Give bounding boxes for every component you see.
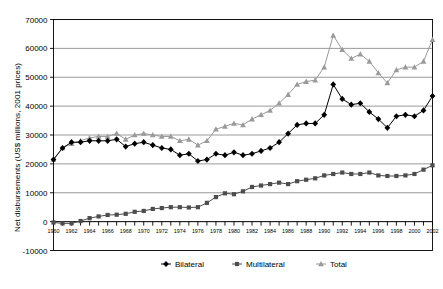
x-tick-label: 1994	[354, 228, 366, 234]
data-point-bilateral	[339, 96, 345, 102]
data-series-group	[51, 32, 436, 225]
x-tick-label: 1962	[66, 228, 78, 234]
data-point-multilateral	[106, 213, 110, 217]
x-tick-label: 1998	[390, 228, 402, 234]
data-point-bilateral	[330, 81, 336, 87]
y-tick-label: 0	[43, 218, 48, 227]
data-point-total	[114, 131, 120, 136]
data-point-total	[357, 51, 363, 56]
data-point-multilateral	[286, 182, 290, 186]
data-point-total	[231, 120, 237, 125]
data-point-total	[430, 37, 436, 42]
line-chart: 700006000050000400003000020000100000-100…	[0, 0, 443, 289]
x-tick-label: 1966	[102, 228, 114, 234]
data-point-bilateral	[267, 145, 273, 151]
data-point-total	[195, 142, 201, 147]
data-point-multilateral	[241, 189, 245, 193]
data-point-multilateral	[412, 172, 416, 176]
y-tick-label: 60000	[25, 44, 48, 53]
data-point-bilateral	[159, 145, 165, 151]
data-point-multilateral	[349, 172, 353, 176]
data-point-multilateral	[115, 213, 119, 217]
legend-item-multilateral[interactable]: Multilateral	[232, 260, 285, 269]
data-point-bilateral	[141, 139, 147, 145]
data-point-multilateral	[87, 216, 91, 220]
series-multilateral	[51, 163, 434, 225]
data-point-multilateral	[232, 192, 236, 196]
data-point-multilateral	[358, 172, 362, 176]
x-tick-marks-group	[54, 222, 433, 226]
data-point-multilateral	[142, 209, 146, 213]
series-line-multilateral	[54, 165, 433, 223]
x-tick-labels-group: 1960196219641966196819701972197419761978…	[48, 228, 439, 234]
legend-marker-bilateral	[163, 261, 169, 267]
data-point-multilateral	[151, 207, 155, 211]
data-point-bilateral	[249, 151, 255, 157]
data-point-bilateral	[132, 141, 138, 147]
legend-item-bilateral[interactable]: Bilateral	[161, 260, 204, 269]
x-tick-label: 1974	[174, 228, 186, 234]
data-point-multilateral	[196, 205, 200, 209]
y-tick-label: 70000	[25, 16, 48, 25]
x-tick-label: 1996	[372, 228, 384, 234]
data-point-bilateral	[303, 120, 309, 126]
y-axis-label: Net disbursements (US$ millions, 2001 pr…	[13, 63, 22, 232]
data-point-multilateral	[394, 174, 398, 178]
y-tick-label: 50000	[25, 73, 48, 82]
x-tick-label: 1980	[228, 228, 240, 234]
x-tick-label: 1976	[192, 228, 204, 234]
data-point-multilateral	[421, 168, 425, 172]
y-axis-label-wrapper: Net disbursements (US$ millions, 2001 pr…	[0, 0, 16, 250]
data-point-total	[321, 64, 327, 69]
data-point-multilateral	[205, 201, 209, 205]
data-point-total	[186, 136, 192, 141]
data-point-bilateral	[403, 112, 409, 118]
data-point-bilateral	[204, 156, 210, 162]
data-point-multilateral	[178, 205, 182, 209]
data-point-multilateral	[268, 182, 272, 186]
y-tick-label: 20000	[25, 160, 48, 169]
x-tick-label: 1972	[156, 228, 168, 234]
data-point-multilateral	[78, 219, 82, 223]
data-point-multilateral	[169, 205, 173, 209]
legend-label-bilateral: Bilateral	[175, 260, 204, 269]
data-point-bilateral	[240, 152, 246, 158]
data-point-bilateral	[150, 142, 156, 148]
data-point-total	[339, 47, 345, 52]
x-tick-label: 1986	[282, 228, 294, 234]
data-point-bilateral	[412, 113, 418, 119]
data-point-multilateral	[367, 170, 371, 174]
data-point-multilateral	[160, 206, 164, 210]
y-tick-label: -10000	[23, 247, 48, 256]
x-tick-label: 1968	[120, 228, 132, 234]
data-point-total	[330, 32, 336, 37]
data-point-multilateral	[259, 183, 263, 187]
data-point-multilateral	[223, 191, 227, 195]
data-point-bilateral	[348, 102, 354, 108]
data-point-multilateral	[313, 176, 317, 180]
y-tick-labels-group: 700006000050000400003000020000100000-100…	[23, 16, 54, 256]
x-tick-label: 1970	[138, 228, 150, 234]
y-tick-label: 10000	[25, 189, 48, 198]
data-point-multilateral	[277, 181, 281, 185]
data-point-multilateral	[340, 170, 344, 174]
data-point-multilateral	[60, 221, 64, 225]
x-tick-label: 1978	[210, 228, 222, 234]
legend-item-total[interactable]: Total	[316, 260, 347, 269]
data-point-multilateral	[250, 185, 254, 189]
data-point-bilateral	[231, 149, 237, 155]
x-tick-label: 1988	[300, 228, 312, 234]
legend-label-total: Total	[330, 260, 347, 269]
data-point-total	[141, 131, 147, 136]
data-point-multilateral	[214, 195, 218, 199]
data-point-bilateral	[258, 148, 264, 154]
legend-marker-multilateral	[235, 262, 239, 266]
data-point-multilateral	[97, 214, 101, 218]
data-point-bilateral	[168, 146, 174, 152]
x-tick-label: 2000	[408, 228, 420, 234]
data-point-multilateral	[331, 172, 335, 176]
data-point-multilateral	[133, 210, 137, 214]
data-point-bilateral	[213, 151, 219, 157]
data-point-bilateral	[222, 152, 228, 158]
data-point-bilateral	[421, 107, 427, 113]
